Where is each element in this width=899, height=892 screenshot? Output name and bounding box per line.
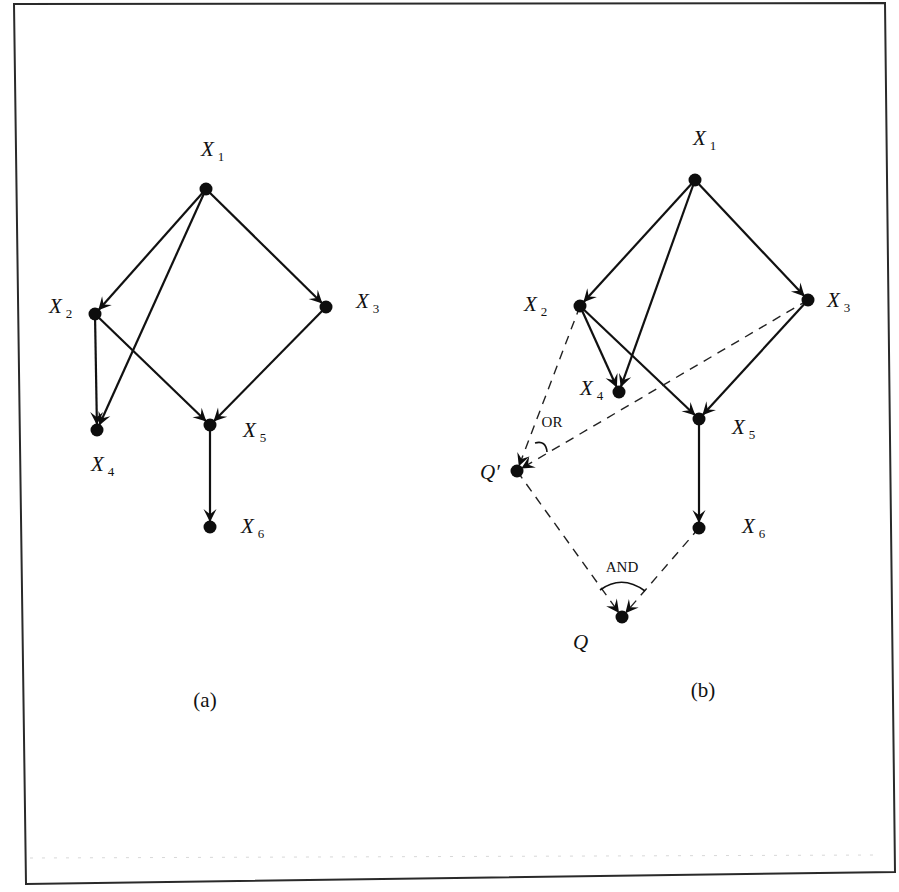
- panel-b-caption: (b): [691, 678, 716, 702]
- node-x1: [200, 183, 213, 196]
- node-label-main: X: [48, 294, 63, 318]
- node-label-x2: X2: [48, 294, 72, 321]
- node-label-x4: X4: [579, 376, 604, 403]
- node-x1: [689, 174, 702, 187]
- node-label-x6: X6: [741, 514, 766, 541]
- panel-a-graph: X1X2X3X4X5X6: [48, 137, 379, 541]
- node-label-main: X: [826, 288, 841, 312]
- edge-x2-to-x5: [95, 314, 206, 422]
- node-label-x1: X1: [200, 137, 224, 164]
- node-q: [616, 611, 629, 624]
- edge-x3-to-x5: [702, 300, 808, 415]
- node-label-x1: X1: [692, 126, 716, 153]
- arrowhead-icon: [606, 599, 619, 613]
- node-label-subscript: 2: [541, 304, 548, 319]
- edge-qp-to-q: [517, 471, 619, 613]
- panel-b-graph: ORANDX1X2X3X4X5X6Q′Q: [480, 126, 850, 654]
- node-x6: [204, 521, 217, 534]
- edge-x1-to-x2: [98, 189, 206, 310]
- node-label-subscript: 2: [66, 306, 73, 321]
- node-label-main: X: [579, 376, 594, 400]
- node-label-main: X: [240, 514, 255, 538]
- node-label-x2: X2: [523, 292, 547, 319]
- node-x4: [91, 424, 104, 437]
- node-label-subscript: 1: [218, 149, 225, 164]
- edge-x1-to-x3: [206, 189, 322, 303]
- node-label-subscript: 1: [710, 138, 717, 153]
- edge-x3-to-qp: [521, 300, 808, 468]
- and-gate-arc: [600, 582, 645, 591]
- panel-a-caption: (a): [193, 688, 216, 712]
- node-label-main: X: [741, 514, 756, 538]
- node-label-main: X: [692, 126, 707, 150]
- node-x5: [693, 413, 706, 426]
- edge-x1-to-x2: [583, 180, 695, 302]
- edge-x1-to-x4: [99, 189, 206, 425]
- node-label-subscript: 3: [373, 301, 380, 316]
- node-x3: [802, 294, 815, 307]
- node-label-subscript: 5: [260, 430, 267, 445]
- node-label-main: X: [523, 292, 538, 316]
- node-x2: [89, 308, 102, 321]
- node-label-main: X: [90, 452, 105, 476]
- node-label-main: Q: [573, 630, 588, 654]
- node-x2: [574, 300, 587, 313]
- diagram-canvas: X1X2X3X4X5X6 ORANDX1X2X3X4X5X6Q′Q (a) (b…: [0, 0, 899, 892]
- node-x4: [613, 386, 626, 399]
- node-label-subscript: 4: [597, 388, 604, 403]
- node-label-main: Q′: [480, 460, 500, 484]
- edge-x2-to-x4: [95, 314, 97, 425]
- node-label-x6: X6: [240, 514, 265, 541]
- node-label-qp: Q′: [480, 460, 500, 484]
- node-x5: [204, 419, 217, 432]
- edge-x3-to-x5: [214, 307, 326, 421]
- edge-x2-to-qp: [519, 306, 580, 466]
- node-label-q: Q: [573, 630, 588, 654]
- node-label-subscript: 6: [759, 526, 766, 541]
- figure-frame: [14, 3, 895, 884]
- node-label-x5: X5: [242, 418, 266, 445]
- node-label-main: X: [242, 418, 257, 442]
- and-gate-label: AND: [606, 559, 639, 575]
- node-label-subscript: 6: [258, 526, 265, 541]
- node-x3: [320, 301, 333, 314]
- node-qp: [511, 465, 524, 478]
- node-label-subscript: 4: [108, 464, 115, 479]
- node-label-main: X: [200, 137, 215, 161]
- arrowhead-icon: [521, 456, 536, 468]
- node-label-x5: X5: [731, 415, 755, 442]
- node-label-x3: X3: [826, 288, 850, 315]
- node-label-subscript: 5: [749, 427, 756, 442]
- or-gate-arc: [535, 442, 547, 452]
- node-label-subscript: 3: [844, 300, 851, 315]
- or-gate-label: OR: [542, 414, 563, 430]
- node-label-x4: X4: [90, 452, 115, 479]
- scan-noise: [30, 855, 880, 858]
- edge-x1-to-x3: [695, 180, 805, 296]
- node-x6: [693, 522, 706, 535]
- node-label-main: X: [355, 289, 370, 313]
- node-label-x3: X3: [355, 289, 379, 316]
- node-label-main: X: [731, 415, 746, 439]
